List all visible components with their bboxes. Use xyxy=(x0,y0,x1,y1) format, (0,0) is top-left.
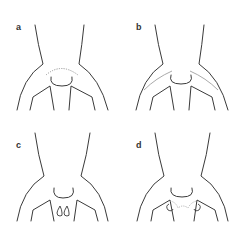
panel-d: d xyxy=(120,118,240,237)
neck-shoulder-outline xyxy=(0,0,120,119)
dotted-arc-marking xyxy=(46,69,78,76)
panel-c: c xyxy=(0,118,120,237)
neck-shoulder-outline xyxy=(120,0,241,119)
dotted-line-marking xyxy=(170,201,197,208)
clavicle-markings xyxy=(144,71,218,90)
neck-shoulder-outline xyxy=(120,118,241,238)
panel-b: b xyxy=(120,0,240,119)
neck-shoulder-outline xyxy=(0,118,120,238)
teardrop-marks xyxy=(57,206,69,216)
panel-a: a xyxy=(0,0,120,119)
